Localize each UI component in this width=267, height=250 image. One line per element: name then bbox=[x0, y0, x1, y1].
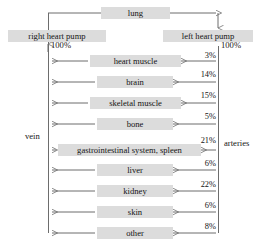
node-lung: lung bbox=[101, 7, 170, 19]
percent-skeletal-muscle: 15% bbox=[182, 91, 216, 101]
percent-kidney: 22% bbox=[182, 180, 216, 190]
node-heart-muscle: heart muscle bbox=[90, 55, 181, 67]
percent-heart-muscle: 3% bbox=[182, 51, 216, 61]
left-pump-total-percent: 100% bbox=[221, 40, 241, 51]
node-brain: brain bbox=[97, 76, 173, 88]
percent-other: 8% bbox=[182, 222, 216, 232]
node-skeletal-muscle: skeletal muscle bbox=[90, 97, 181, 109]
percent-gastrointestinal-system-spleen: 21% bbox=[182, 136, 216, 146]
node-bone: bone bbox=[97, 118, 173, 130]
percent-bone: 5% bbox=[182, 112, 216, 122]
label-arteries: arteries bbox=[224, 138, 249, 149]
label-vein: vein bbox=[25, 131, 40, 142]
circulatory-flow-diagram: lung right heart pump left heart pump 10… bbox=[0, 0, 267, 250]
percent-brain: 14% bbox=[182, 70, 216, 80]
percent-skin: 6% bbox=[182, 201, 216, 211]
node-gastrointestinal-system-spleen: gastrointestinal system, spleen bbox=[58, 144, 201, 156]
node-skin: skin bbox=[97, 206, 173, 218]
right-pump-total-percent: 100% bbox=[51, 40, 71, 51]
node-other: other bbox=[97, 227, 173, 239]
node-kidney: kidney bbox=[97, 185, 173, 197]
node-liver: liver bbox=[97, 164, 173, 176]
percent-liver: 6% bbox=[182, 159, 216, 169]
